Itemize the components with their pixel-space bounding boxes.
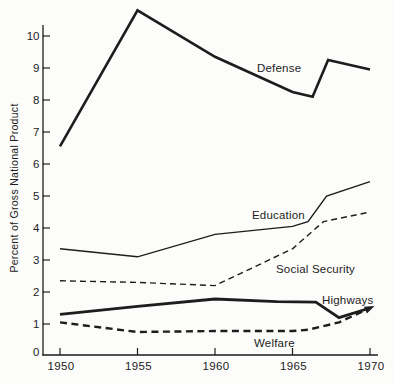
education-line: [60, 182, 370, 257]
x-tick-label: 1965: [280, 360, 307, 372]
defense-label: Defense: [257, 62, 301, 74]
y-tick-label: 1: [33, 318, 39, 330]
gnp-spending-line-chart: 01234567891019501955196019651970Percent …: [0, 0, 395, 383]
y-tick-label: 2: [33, 286, 39, 298]
chart-canvas: 01234567891019501955196019651970Percent …: [0, 0, 395, 383]
y-tick-label: 7: [33, 126, 39, 138]
y-tick-label: 0: [33, 346, 39, 358]
highways-label: Highways: [322, 294, 374, 306]
welfare-line: [60, 308, 370, 332]
y-tick-label: 6: [33, 158, 39, 170]
y-axis-title: Percent of Gross National Product: [8, 103, 20, 272]
y-tick-label: 9: [33, 62, 39, 74]
y-tick-label: 5: [33, 190, 39, 202]
defense-line: [60, 10, 370, 146]
social-security-label: Social Security: [276, 263, 355, 275]
welfare-label: Welfare: [254, 337, 295, 349]
x-tick-label: 1950: [48, 360, 75, 372]
y-tick-label: 4: [33, 222, 40, 234]
y-tick-label: 3: [33, 254, 39, 266]
education-label: Education: [252, 209, 305, 221]
y-tick-label: 10: [27, 30, 40, 42]
x-tick-label: 1960: [203, 360, 230, 372]
y-tick-label: 8: [33, 94, 39, 106]
x-tick-label: 1955: [125, 360, 152, 372]
x-tick-label: 1970: [358, 360, 385, 372]
